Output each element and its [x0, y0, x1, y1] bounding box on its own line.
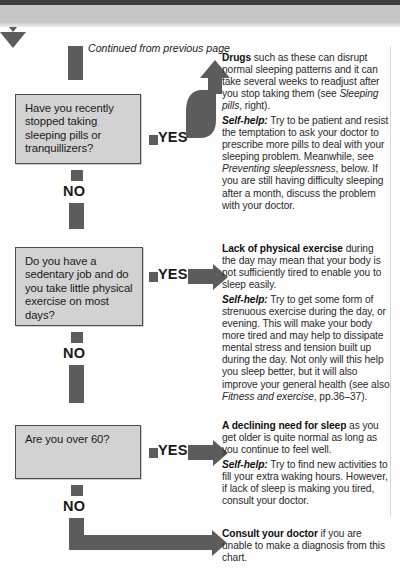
- answer-1-paragraph-1: Drugs such as these can disrupt normal s…: [222, 52, 390, 112]
- question-box-2: Do you have a sedentary job and do you t…: [15, 247, 143, 326]
- no-label-2: NO: [63, 345, 85, 361]
- answer-block-3: A declining need for sleep as you get ol…: [222, 420, 390, 507]
- answer-1-paragraph-2: Self-help: Try to be patient and resist …: [222, 115, 390, 211]
- scan-gray-header-bar: [0, 5, 400, 27]
- no-stub-3-icon: [71, 485, 83, 496]
- no-arrow-2-head-icon: [0, 32, 26, 48]
- question-box-1: Have you recently stopped taking sleepin…: [15, 94, 141, 164]
- answer-block-2: Lack of physical exercise during the day…: [222, 243, 390, 403]
- answer-4-paragraph-1: Consult your doctor if you are unable to…: [222, 528, 390, 564]
- yes-label-2: YES: [158, 266, 188, 282]
- answer-2-lead: Lack of physical exercise: [222, 243, 343, 254]
- answer-1-selfhelp-italic: Preventing sleeplessness: [222, 163, 336, 174]
- final-arrow-horizontal-shaft: [69, 535, 214, 550]
- answer-2-selfhelp-text-2: , pp.36–37).: [314, 391, 367, 402]
- question-box-3: Are you over 60?: [15, 425, 141, 479]
- question-box-3-text: Are you over 60?: [25, 433, 134, 446]
- answer-block-1: Drugs such as these can disrupt normal s…: [222, 52, 390, 212]
- yes-arrow-2-shaft: [188, 269, 214, 284]
- continued-from-previous-page-label: Continued from previous page: [88, 42, 230, 55]
- yes-tick-2-icon: [149, 272, 158, 282]
- answer-1-selfhelp-label: Self-help:: [222, 115, 268, 126]
- no-arrow-2-shaft: [69, 365, 84, 403]
- no-label-1: NO: [63, 183, 85, 199]
- no-arrow-1-shaft: [69, 203, 84, 229]
- answer-4-lead: Consult your doctor: [222, 528, 318, 539]
- no-stub-1-icon: [71, 170, 83, 181]
- answer-2-paragraph-2: Self-help: Try to get some form of stren…: [222, 294, 390, 402]
- flowchart-page: Continued from previous page Have you re…: [0, 0, 400, 573]
- answer-block-4: Consult your doctor if you are unable to…: [222, 528, 390, 564]
- answer-2-paragraph-1: Lack of physical exercise during the day…: [222, 243, 390, 291]
- question-box-1-text: Have you recently stopped taking sleepin…: [25, 102, 134, 156]
- no-stub-2-icon: [71, 332, 83, 343]
- answer-1-body-tail: , right).: [239, 100, 270, 111]
- answer-2-selfhelp-italic: Fitness and exercise: [222, 391, 314, 402]
- question-box-2-text: Do you have a sedentary job and do you t…: [25, 255, 136, 322]
- answer-1-lead: Drugs: [222, 52, 251, 63]
- answer-3-paragraph-2: Self-help: Try to find new activities to…: [222, 459, 390, 507]
- answer-3-lead: A declining need for sleep: [222, 420, 346, 431]
- yes-tick-3-icon: [149, 448, 158, 458]
- answer-3-paragraph-1: A declining need for sleep as you get ol…: [222, 420, 390, 456]
- no-label-3: NO: [63, 498, 85, 514]
- entry-arrow-shaft: [68, 46, 83, 80]
- yes-tick-1-icon: [149, 135, 158, 145]
- yes-label-3: YES: [158, 442, 188, 458]
- answer-3-selfhelp-label: Self-help:: [222, 459, 268, 470]
- yes-label-1: YES: [158, 129, 188, 145]
- answer-2-selfhelp-text-1: Try to get some form of strenuous exerci…: [222, 294, 390, 389]
- column-divider-rule: [390, 46, 391, 516]
- answer-2-selfhelp-label: Self-help:: [222, 294, 268, 305]
- yes-arrow-3-shaft: [188, 445, 214, 460]
